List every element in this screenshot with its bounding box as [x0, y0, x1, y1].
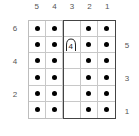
row-label-4: 4 — [10, 57, 20, 66]
cell — [29, 53, 46, 69]
purl-dot-icon — [104, 75, 109, 80]
row-label-5: 5 — [122, 41, 132, 50]
cell — [63, 69, 80, 85]
row-label-2: 2 — [10, 90, 20, 99]
cell — [29, 102, 46, 118]
cell — [81, 102, 98, 118]
cell — [63, 102, 80, 118]
cell — [46, 37, 63, 53]
column-label-5: 5 — [28, 2, 46, 11]
row-label-1: 1 — [122, 107, 132, 116]
purl-dot-icon — [86, 107, 91, 112]
purl-dot-icon — [35, 91, 40, 96]
purl-dot-icon — [35, 75, 40, 80]
cell — [46, 21, 63, 37]
cell — [46, 53, 63, 69]
column-label-3: 3 — [63, 2, 81, 11]
column-label-4: 4 — [46, 2, 64, 11]
cell — [63, 53, 80, 69]
purl-dot-icon — [52, 75, 57, 80]
purl-dot-icon — [104, 91, 109, 96]
purl-dot-icon — [86, 26, 91, 31]
stitch-chart-grid: 4 — [28, 20, 116, 119]
cell — [98, 37, 115, 53]
cell — [98, 69, 115, 85]
purl-dot-icon — [35, 107, 40, 112]
cell — [29, 37, 46, 53]
arch-label: 4 — [68, 42, 72, 51]
cell — [29, 69, 46, 85]
cell — [81, 21, 98, 37]
purl-dot-icon — [86, 58, 91, 63]
purl-dot-icon — [86, 75, 91, 80]
purl-dot-icon — [52, 91, 57, 96]
purl-dot-icon — [104, 26, 109, 31]
row-label-3: 3 — [122, 74, 132, 83]
cell — [46, 102, 63, 118]
row-label-6: 6 — [10, 24, 20, 33]
purl-dot-icon — [52, 42, 57, 47]
purl-dot-icon — [104, 42, 109, 47]
bobble-arch-icon: 4 — [65, 38, 77, 51]
purl-dot-icon — [86, 42, 91, 47]
cell — [98, 53, 115, 69]
cell — [98, 102, 115, 118]
purl-dot-icon — [52, 58, 57, 63]
cell — [81, 69, 98, 85]
cell — [81, 86, 98, 102]
purl-dot-icon — [52, 107, 57, 112]
cell — [46, 86, 63, 102]
cell — [81, 53, 98, 69]
purl-dot-icon — [35, 58, 40, 63]
cell — [63, 21, 80, 37]
cell — [81, 37, 98, 53]
cell — [29, 21, 46, 37]
column-label-2: 2 — [81, 2, 99, 11]
purl-dot-icon — [52, 26, 57, 31]
cell — [98, 21, 115, 37]
column-label-1: 1 — [98, 2, 116, 11]
cell — [63, 86, 80, 102]
purl-dot-icon — [35, 42, 40, 47]
cell: 4 — [63, 37, 80, 53]
purl-dot-icon — [35, 26, 40, 31]
cell — [29, 86, 46, 102]
cell — [46, 69, 63, 85]
purl-dot-icon — [104, 58, 109, 63]
purl-dot-icon — [86, 91, 91, 96]
cell — [98, 86, 115, 102]
purl-dot-icon — [104, 107, 109, 112]
